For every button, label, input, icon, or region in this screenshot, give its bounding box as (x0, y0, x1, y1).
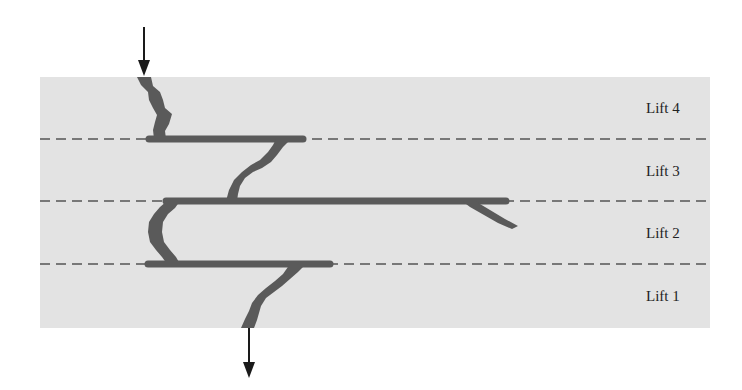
lift-crack-diagram: Lift 4 Lift 3 Lift 2 Lift 1 (0, 0, 742, 390)
arrow-down-bottom-icon (243, 328, 255, 378)
lift-label-3: Lift 3 (646, 163, 680, 179)
arrow-down-top-icon (138, 27, 150, 76)
lift-label-1: Lift 1 (646, 288, 680, 304)
lift-label-2: Lift 2 (646, 225, 680, 241)
lift-label-4: Lift 4 (646, 100, 680, 116)
